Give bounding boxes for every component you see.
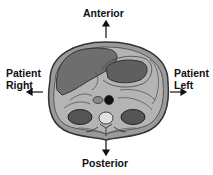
patient-left-line2: Left xyxy=(174,79,209,91)
patient-left-line1: Patient xyxy=(174,67,209,79)
anterior-arrow xyxy=(103,21,109,38)
patient-right-label: Patient Right xyxy=(6,67,41,91)
patient-right-line1: Patient xyxy=(6,67,41,79)
posterior-label: Posterior xyxy=(82,157,128,169)
stomach-shape xyxy=(106,60,147,83)
anterior-label: Anterior xyxy=(83,7,124,19)
posterior-arrow xyxy=(103,140,109,155)
patient-left-label: Patient Left xyxy=(174,67,209,91)
aorta xyxy=(105,96,114,105)
vertebral-body xyxy=(99,112,113,124)
patient-right-line2: Right xyxy=(6,79,41,91)
left-kidney xyxy=(121,110,145,125)
right-kidney xyxy=(68,110,92,125)
ivc xyxy=(93,97,103,104)
